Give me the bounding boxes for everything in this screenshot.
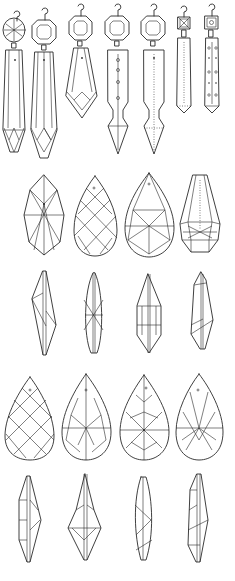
lined-teardrop-icon <box>62 374 111 460</box>
row-5-side-profiles <box>19 474 208 562</box>
octagon-connector-colonial-prism-icon <box>141 4 165 154</box>
french-cut-pear-pendant-icon <box>125 173 174 257</box>
lattice-teardrop-icon <box>176 374 223 460</box>
square-connector-dotted-baton-prism-icon <box>205 4 219 113</box>
profile-2-icon <box>84 273 103 353</box>
row-4-teardrop-pendants <box>5 374 223 460</box>
profile-4-icon <box>191 272 213 349</box>
profile-3-icon <box>137 274 161 353</box>
diamond-cut-pear-pendant-icon <box>74 176 117 256</box>
profile-1-icon <box>32 271 56 355</box>
row-1-hanging-prisms <box>3 4 219 158</box>
star-cut-oval-pendant-icon <box>24 175 64 255</box>
octagon-connector-short-spear-prism-icon <box>66 4 97 118</box>
profile-7-icon <box>135 477 152 560</box>
row-3-side-profiles <box>32 271 213 355</box>
profile-6-icon <box>68 474 101 560</box>
row-2-front-pendants <box>24 173 220 257</box>
diagram-drawing <box>0 0 235 581</box>
octagon-connector-colonial-prism-beaded-icon <box>105 4 129 154</box>
oval-connector-icicle-prism-icon <box>3 11 25 152</box>
crystal-prisms-diagram: Chandelier crystal prisms and pendants l… <box>0 0 235 581</box>
square-connector-baton-prism-icon <box>177 6 191 113</box>
profile-5-icon <box>19 476 41 562</box>
starburst-teardrop-icon <box>120 375 169 460</box>
profile-8-icon <box>188 474 208 562</box>
faceted-tapered-pendant-icon <box>180 175 220 252</box>
octagon-connector-icicle-prism-icon <box>31 8 57 158</box>
diamond-cut-teardrop-icon <box>5 377 54 460</box>
